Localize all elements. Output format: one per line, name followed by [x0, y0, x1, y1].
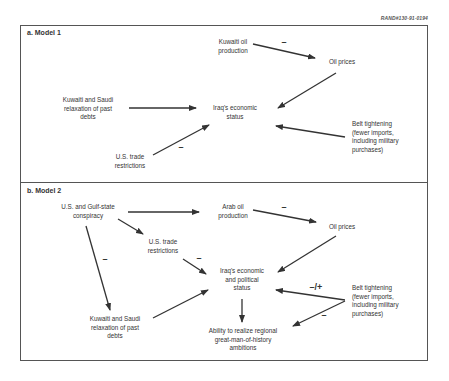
arrow-oil-production-to-prices	[253, 44, 315, 58]
causal-arrows	[0, 0, 449, 381]
arrow-oil-prices-to-iraq	[278, 73, 336, 108]
arrow-oil-prices-to-iraq	[278, 236, 336, 272]
arrow-conspiracy-to-relaxation	[86, 226, 110, 310]
arrow-trade-to-iraq	[183, 259, 206, 274]
arrow-conspiracy-to-trade	[118, 219, 143, 234]
arrow-relaxation-to-iraq	[153, 290, 208, 318]
arrow-arab-oil-to-prices	[253, 210, 316, 222]
arrow-belt-to-iraq	[276, 126, 345, 137]
arrow-belt-to-ability	[293, 301, 345, 326]
arrow-belt-to-iraq	[276, 290, 345, 300]
arrow-trade-to-iraq	[153, 125, 209, 155]
